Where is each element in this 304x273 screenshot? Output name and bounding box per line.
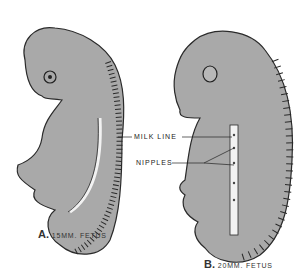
fetus-b-drawing: [174, 31, 292, 262]
caption-a-text: 15MM. FETUS: [52, 232, 107, 239]
caption-b: B. 20MM. FETUS: [204, 258, 273, 270]
milk-line-label: MILK LINE: [134, 133, 177, 140]
nipples-label: NIPPLES: [136, 159, 173, 166]
fetus-a-drawing: [17, 28, 124, 255]
caption-a-letter: A.: [38, 228, 49, 240]
caption-b-letter: B.: [204, 258, 215, 270]
caption-a: A. 15MM. FETUS: [38, 228, 107, 240]
caption-b-text: 20MM. FETUS: [218, 262, 273, 269]
